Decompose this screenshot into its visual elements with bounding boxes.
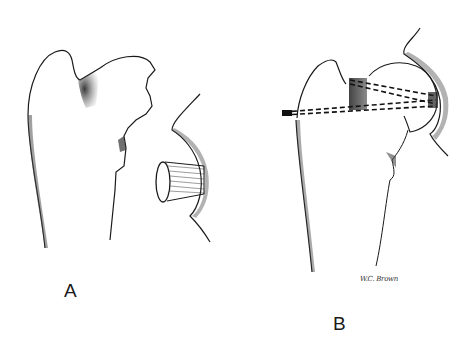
panel-b: W.C. Brown B (236, 0, 476, 344)
humerus-defect-illustration (0, 0, 236, 344)
artist-signature: W.C. Brown (360, 275, 398, 283)
humerus-graft-fixation-illustration (236, 0, 476, 344)
panel-label-a: A (64, 280, 77, 302)
panel-a: A (0, 0, 236, 344)
panel-label-b: B (333, 313, 346, 335)
